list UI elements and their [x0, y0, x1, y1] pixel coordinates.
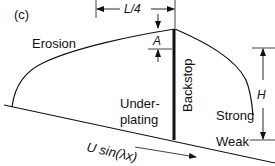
underplating-label-2: plating	[120, 112, 158, 127]
a-label: A	[152, 34, 161, 48]
wedge-diagram: (c) Erosion L/4 A H Under- plating Backs…	[0, 0, 275, 166]
underplating-label-1: Under-	[120, 96, 160, 111]
panel-label: (c)	[14, 7, 29, 22]
erosion-label: Erosion	[32, 36, 76, 51]
backstop-label: Backstop	[180, 59, 195, 112]
strong-label: Strong	[216, 108, 254, 123]
h-label: H	[257, 88, 266, 102]
velocity-label: U sin(λx)	[85, 139, 138, 164]
weak-label: Weak	[216, 134, 249, 149]
l4-label: L/4	[124, 2, 141, 16]
diagram-svg: (c) Erosion L/4 A H Under- plating Backs…	[0, 0, 275, 166]
velocity-arrow	[135, 147, 196, 157]
